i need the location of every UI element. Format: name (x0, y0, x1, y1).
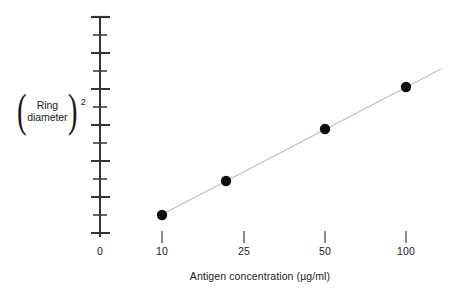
x-axis-title: Antigen concentration (µg/ml) (190, 270, 330, 282)
x-tick-label-0: 0 (97, 245, 103, 257)
y-axis-label-denominator: diameter (27, 111, 67, 123)
data-point (401, 82, 411, 92)
paren-left-glyph: ( (17, 96, 27, 126)
x-axis-title-wrap: Antigen concentration (µg/ml) (0, 270, 466, 282)
x-tick-label-25: 25 (238, 245, 250, 257)
x-tick-label-100: 100 (397, 245, 415, 257)
y-axis-label-exponent: 2 (81, 97, 86, 107)
trendline (161, 69, 441, 215)
paren-right-glyph: ) (68, 96, 78, 126)
y-axis-label-numerator: Ring (37, 99, 58, 111)
y-axis-label: ( Ring diameter ) 2 (14, 96, 86, 126)
data-point (157, 210, 167, 220)
x-tick-label-50: 50 (319, 245, 331, 257)
chart-figure: ( Ring diameter ) 2 0 10 25 50 100 Antig… (0, 0, 466, 298)
data-point (320, 124, 330, 134)
x-tick-label-10: 10 (156, 245, 168, 257)
y-axis-label-fraction: Ring diameter (26, 99, 68, 123)
data-point (221, 176, 231, 186)
